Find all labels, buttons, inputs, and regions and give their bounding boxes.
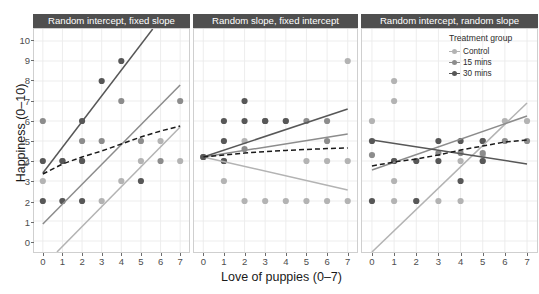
series-points-30-mins bbox=[40, 58, 144, 204]
x-tick-mark bbox=[141, 253, 142, 256]
x-tick-mark bbox=[527, 253, 528, 256]
grid-lines bbox=[194, 29, 357, 252]
y-tick-mark bbox=[31, 80, 34, 81]
facet-strip-label: Random slope, fixed intercept bbox=[193, 14, 358, 28]
overall-trend-line bbox=[43, 126, 180, 174]
x-tick-label: 5 bbox=[480, 256, 485, 267]
y-tick-label: 7 bbox=[8, 95, 30, 106]
x-tick-label: 6 bbox=[158, 256, 163, 267]
x-tick-mark bbox=[306, 253, 307, 256]
x-tick-label: 0 bbox=[40, 256, 45, 267]
legend-title: Treatment group bbox=[449, 33, 512, 43]
x-axis-title: Love of puppies (0–7) bbox=[24, 270, 539, 284]
x-tick-label: 3 bbox=[263, 256, 268, 267]
y-tick-label: 2 bbox=[8, 196, 30, 207]
y-tick-label: 9 bbox=[8, 55, 30, 66]
x-tick-mark bbox=[265, 253, 266, 256]
legend-key-icon bbox=[449, 68, 460, 79]
x-tick-mark bbox=[180, 253, 181, 256]
legend-key-icon bbox=[449, 46, 460, 57]
x-tick-mark bbox=[102, 253, 103, 256]
y-tick-label: 0 bbox=[8, 236, 30, 247]
facet-strip-label: Random intercept, random slope bbox=[361, 14, 538, 28]
x-tick-mark bbox=[348, 253, 349, 256]
x-tick-label: 7 bbox=[524, 256, 529, 267]
y-tick-mark bbox=[31, 60, 34, 61]
x-tick-mark bbox=[203, 253, 204, 256]
x-tick-label: 4 bbox=[458, 256, 463, 267]
x-tick-mark bbox=[416, 253, 417, 256]
y-tick-mark bbox=[31, 121, 34, 122]
chart-root: Happiness (0–10) Love of puppies (0–7) 0… bbox=[0, 0, 539, 294]
y-tick-mark bbox=[31, 101, 34, 102]
fit-line-control bbox=[372, 103, 527, 252]
x-tick-label: 2 bbox=[414, 256, 419, 267]
y-tick-label: 3 bbox=[8, 176, 30, 187]
x-tick-label: 0 bbox=[201, 256, 206, 267]
y-tick-mark bbox=[31, 161, 34, 162]
x-tick-label: 2 bbox=[242, 256, 247, 267]
x-tick-label: 6 bbox=[502, 256, 507, 267]
x-tick-label: 5 bbox=[304, 256, 309, 267]
legend-key-icon bbox=[449, 57, 460, 68]
fit-line-30-mins bbox=[203, 109, 347, 157]
y-tick-label: 8 bbox=[8, 75, 30, 86]
y-tick-label: 10 bbox=[8, 35, 30, 46]
legend-item-30-mins[interactable]: 30 mins bbox=[449, 68, 512, 79]
x-tick-mark bbox=[461, 253, 462, 256]
x-tick-mark bbox=[438, 253, 439, 256]
legend-item-15-mins[interactable]: 15 mins bbox=[449, 57, 512, 68]
x-tick-label: 4 bbox=[283, 256, 288, 267]
x-tick-mark bbox=[43, 253, 44, 256]
facet-panel-1: Random intercept, fixed slope bbox=[33, 14, 190, 253]
legend-entries: Control15 mins30 mins bbox=[449, 46, 512, 79]
x-tick-mark bbox=[505, 253, 506, 256]
x-tick-mark bbox=[327, 253, 328, 256]
x-tick-mark bbox=[161, 253, 162, 256]
x-tick-label: 3 bbox=[436, 256, 441, 267]
y-tick-mark bbox=[31, 202, 34, 203]
x-tick-label: 0 bbox=[369, 256, 374, 267]
x-tick-label: 3 bbox=[99, 256, 104, 267]
x-tick-mark bbox=[224, 253, 225, 256]
y-axis-ticks: 012345678910 bbox=[8, 0, 30, 294]
legend-item-control[interactable]: Control bbox=[449, 46, 512, 57]
x-tick-label: 6 bbox=[324, 256, 329, 267]
x-tick-mark bbox=[245, 253, 246, 256]
x-tick-mark bbox=[62, 253, 63, 256]
x-tick-label: 1 bbox=[60, 256, 65, 267]
facet-panel-2: Random slope, fixed intercept bbox=[193, 14, 358, 253]
y-tick-label: 4 bbox=[8, 156, 30, 167]
x-tick-mark bbox=[286, 253, 287, 256]
x-tick-label: 4 bbox=[119, 256, 124, 267]
fit-line-15-mins bbox=[43, 85, 180, 224]
y-tick-mark bbox=[31, 181, 34, 182]
plot-area bbox=[33, 28, 190, 253]
legend-item-label: Control bbox=[463, 47, 489, 56]
legend-item-label: 15 mins bbox=[463, 58, 492, 67]
x-tick-label: 7 bbox=[345, 256, 350, 267]
plot-area bbox=[193, 28, 358, 253]
x-tick-label: 1 bbox=[391, 256, 396, 267]
y-tick-mark bbox=[31, 40, 34, 41]
x-tick-mark bbox=[372, 253, 373, 256]
y-tick-label: 6 bbox=[8, 115, 30, 126]
x-tick-label: 2 bbox=[79, 256, 84, 267]
x-tick-label: 5 bbox=[138, 256, 143, 267]
x-tick-mark bbox=[394, 253, 395, 256]
y-tick-label: 1 bbox=[8, 216, 30, 227]
x-tick-label: 1 bbox=[221, 256, 226, 267]
legend-item-label: 30 mins bbox=[463, 69, 492, 78]
grid-lines bbox=[34, 29, 189, 252]
legend: Treatment group Control15 mins30 mins bbox=[449, 33, 512, 79]
series-points-control bbox=[200, 58, 351, 204]
fit-line-15-mins bbox=[203, 134, 347, 157]
y-tick-label: 5 bbox=[8, 136, 30, 147]
x-tick-mark bbox=[483, 253, 484, 256]
x-tick-label: 7 bbox=[178, 256, 183, 267]
x-tick-mark bbox=[82, 253, 83, 256]
y-tick-mark bbox=[31, 242, 34, 243]
y-tick-mark bbox=[31, 141, 34, 142]
y-tick-mark bbox=[31, 222, 34, 223]
facet-strip-label: Random intercept, fixed slope bbox=[33, 14, 190, 28]
